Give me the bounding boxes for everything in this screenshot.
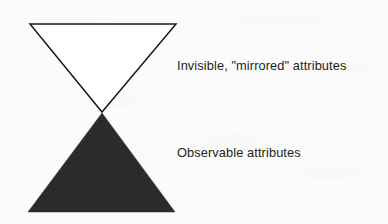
figure-canvas: Invisible, "mirrored" attributes Observa… xyxy=(0,0,388,224)
inverted-triangle-outline-icon xyxy=(30,24,176,112)
label-invisible-attributes: Invisible, "mirrored" attributes xyxy=(177,59,346,73)
triangle-diagram xyxy=(0,0,388,224)
triangle-filled-icon xyxy=(28,113,175,212)
label-observable-attributes: Observable attributes xyxy=(177,146,301,160)
